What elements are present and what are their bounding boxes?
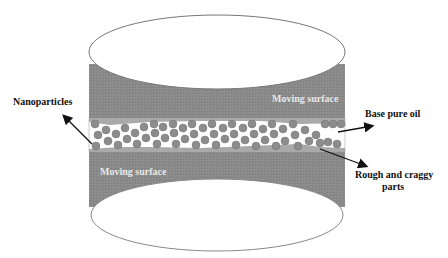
base-pure-oil-label: Base pure oil: [365, 108, 420, 119]
bottom-cylinder-face: [91, 179, 343, 251]
lubrication-diagram: [0, 0, 448, 258]
top-cylinder-face: [89, 15, 345, 89]
bottom-moving-surface-label: Moving surface: [100, 166, 166, 177]
rough-craggy-label-line1: Rough and craggy: [355, 169, 433, 180]
rough-craggy-label-line2: parts: [382, 181, 404, 192]
top-moving-surface-label: Moving surface: [272, 93, 338, 104]
nanoparticles-label: Nanoparticles: [13, 96, 72, 107]
nanoparticles-arrow: [64, 116, 92, 144]
